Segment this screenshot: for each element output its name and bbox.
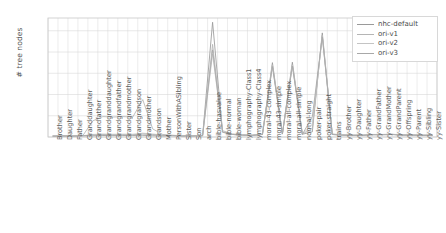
x-tick-label: Brother bbox=[56, 115, 64, 140]
x-tick-label: Daughter bbox=[66, 109, 74, 140]
legend-label: ori-v3 bbox=[378, 49, 398, 58]
x-tick-label: bible-hasvalue bbox=[215, 92, 223, 140]
legend-label: ori-v2 bbox=[378, 39, 398, 48]
x-tick-label: yy-Sibling bbox=[425, 108, 433, 140]
x-tick-label: Granddaughter bbox=[86, 90, 94, 140]
x-tick-label: moral-all-complex bbox=[285, 81, 293, 140]
x-tick-label: yy-Father bbox=[365, 109, 373, 140]
x-tick-label: PersonWithASibling bbox=[175, 76, 183, 140]
x-tick-label: lymphography-Class4 bbox=[255, 68, 263, 140]
x-tick-label: Grandmother bbox=[145, 96, 153, 140]
legend-item[interactable]: ori-v2 bbox=[357, 39, 433, 49]
x-tick-label: moral-all-simple bbox=[295, 87, 303, 140]
legend-label: nhc-default bbox=[378, 20, 418, 29]
x-tick-label: arch bbox=[205, 126, 213, 140]
x-tick-label: bible-normal bbox=[225, 98, 233, 140]
x-tick-label: lymphography-Class1 bbox=[245, 68, 253, 140]
x-tick-label: yy-Offspring bbox=[405, 99, 413, 140]
x-tick-label: Grandson bbox=[155, 108, 163, 140]
legend-item[interactable]: ori-v1 bbox=[357, 30, 433, 40]
x-tick-label: yy-Sister bbox=[435, 111, 443, 140]
legend-label: ori-v1 bbox=[378, 30, 398, 39]
x-tick-label: Father bbox=[76, 119, 84, 140]
x-tick-label: bible-woman bbox=[235, 97, 243, 140]
x-tick-label: Son bbox=[195, 128, 203, 140]
x-tick-label: Sister bbox=[185, 121, 193, 140]
x-tick-label: Grandgrandmother bbox=[125, 76, 133, 140]
x-tick-label: trains bbox=[335, 121, 343, 140]
x-tick-label: Grandgrandfather bbox=[115, 81, 123, 140]
x-tick-label: yy-Daughter bbox=[355, 99, 363, 140]
x-tick-label: Grandgranddaughter bbox=[105, 70, 113, 140]
legend-color-swatch bbox=[357, 34, 374, 35]
legend-color-swatch bbox=[357, 43, 374, 44]
x-tick-label: poker-pair bbox=[315, 107, 323, 140]
x-tick-label: Mother bbox=[165, 117, 173, 140]
x-tick-label: yy-GrandFather bbox=[375, 89, 383, 140]
legend-item[interactable]: ori-v3 bbox=[357, 49, 433, 59]
x-tick-label: yy-GrandParent bbox=[395, 88, 403, 140]
x-tick-label: yy-Brother bbox=[345, 106, 353, 141]
x-tick-label: moral-43-complex bbox=[265, 80, 273, 140]
x-tick-label: Grandgrandson bbox=[135, 89, 143, 140]
x-tick-label: moral-43-simple bbox=[275, 86, 283, 140]
legend-color-swatch bbox=[357, 53, 374, 54]
legend-item[interactable]: nhc-default bbox=[357, 20, 433, 30]
chart-figure: 05001000150020002500 # tree nodes Brothe… bbox=[0, 0, 446, 233]
x-tick-label: yy-GrandMother bbox=[385, 86, 393, 140]
x-tick-label: yy-Parent bbox=[415, 109, 423, 140]
legend-color-swatch bbox=[357, 24, 374, 25]
x-tick-label: poker-straight bbox=[325, 94, 333, 140]
x-tick-label: Grandfather bbox=[95, 100, 103, 140]
x-tick-label: normal-long bbox=[305, 100, 313, 140]
chart-legend: nhc-defaultori-v1ori-v2ori-v3 bbox=[352, 16, 438, 62]
